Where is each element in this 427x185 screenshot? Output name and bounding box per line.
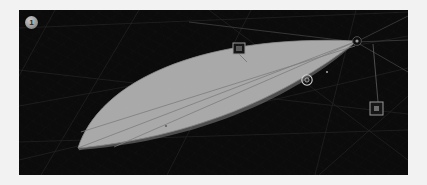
viewport-3d[interactable]: 1 — [19, 10, 408, 175]
screenshot-root: 1 — [0, 0, 427, 185]
handle-square-right[interactable] — [370, 102, 383, 115]
handle-vertex-corner[interactable] — [353, 37, 362, 46]
surface-midpoint-marker — [165, 125, 167, 127]
surface-aux-marker — [326, 71, 328, 73]
handle-square-top[interactable] — [233, 43, 245, 54]
viewport-canvas[interactable] — [19, 10, 408, 175]
viewport-index-badge[interactable]: 1 — [25, 16, 38, 29]
